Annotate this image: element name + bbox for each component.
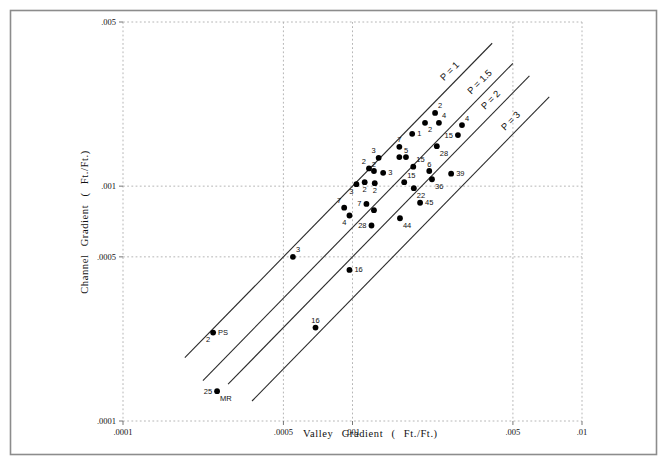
data-point-label: 15: [445, 131, 453, 140]
data-point-label: 4: [442, 111, 446, 120]
data-point-label: 2: [373, 186, 377, 195]
figure-border: [11, 11, 657, 455]
data-point-label: 25: [204, 387, 212, 396]
data-point: [432, 110, 438, 116]
x-tick-label: .005: [505, 427, 520, 437]
data-point: [364, 201, 370, 207]
figure-frame: .0001.0005.001.005.01.005.001.0005.0001P…: [0, 0, 670, 466]
data-point-label: 44: [403, 221, 411, 230]
data-point-label: 28: [440, 149, 448, 158]
y-axis-title: Channel Gradient ( Ft./Ft.): [79, 150, 90, 293]
data-point-label: 2: [363, 185, 367, 194]
y-tick-label: .0005: [97, 252, 116, 262]
data-point: [436, 120, 442, 126]
data-point-label: 2: [372, 160, 376, 169]
data-point: [313, 325, 319, 331]
y-tick-label: .001: [101, 181, 116, 191]
data-point: [410, 164, 416, 170]
data-point-label: 5: [404, 146, 408, 155]
data-point: [417, 200, 423, 206]
data-point: [376, 155, 382, 161]
data-point: [455, 132, 461, 138]
x-tick-label: .0001: [113, 427, 132, 437]
x-tick-label: .01: [577, 427, 588, 437]
data-point-label: 16: [354, 265, 362, 274]
data-point: [369, 223, 375, 229]
data-point-label: 6: [427, 160, 431, 169]
data-point-label: 3: [296, 245, 300, 254]
data-point-label: 45: [425, 198, 433, 207]
data-point-label: 2: [362, 157, 366, 166]
data-point-label: 1: [417, 129, 421, 138]
data-point: [347, 267, 353, 273]
sinuosity-line: [228, 76, 529, 384]
data-point: [396, 154, 402, 160]
data-point-label: MR: [220, 394, 232, 403]
data-point-label: 16: [311, 316, 319, 325]
data-point: [426, 168, 432, 174]
data-point: [459, 122, 465, 128]
data-point: [371, 207, 377, 213]
data-point-label: 7: [357, 199, 361, 208]
data-point-label: 3: [388, 168, 392, 177]
data-point-label: 3: [349, 187, 353, 196]
data-point: [371, 168, 377, 174]
data-point-label: 15: [407, 171, 415, 180]
x-tick-label: .0005: [274, 427, 293, 437]
data-point-label: 2: [428, 125, 432, 134]
data-point: [341, 205, 347, 211]
data-point: [401, 179, 407, 185]
data-point: [448, 171, 454, 177]
data-point: [403, 154, 409, 160]
data-point: [210, 330, 216, 336]
data-point-label: 4: [342, 218, 346, 227]
data-point: [409, 131, 415, 137]
x-axis-title: Valley Gradient ( Ft./Ft.): [303, 428, 438, 439]
data-point-label: 2: [438, 101, 442, 110]
data-point-label: 22: [417, 191, 425, 200]
data-point-label: 15: [416, 155, 424, 164]
data-point-label: 4: [465, 114, 469, 123]
data-point-label: 39: [456, 169, 464, 178]
data-point: [290, 254, 296, 260]
data-point-label: 3: [371, 146, 375, 155]
data-point: [396, 144, 402, 150]
data-point: [380, 170, 386, 176]
data-point-label: 36: [435, 182, 443, 191]
data-point-label: 28: [358, 221, 366, 230]
data-point-label: 7: [337, 196, 341, 205]
plot-area: .0001.0005.001.005.01.005.001.0005.0001P…: [0, 0, 670, 466]
data-point-label: 7: [397, 135, 401, 144]
y-tick-label: .005: [101, 17, 116, 27]
y-tick-label: .0001: [97, 416, 116, 426]
data-point: [347, 213, 353, 219]
data-point-label: PS: [218, 328, 228, 337]
data-point: [354, 181, 360, 187]
data-point-label: 2: [206, 335, 210, 344]
